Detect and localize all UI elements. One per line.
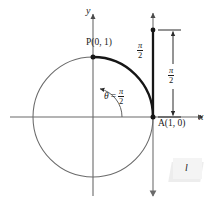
angle-denominator: 2 xyxy=(118,97,124,106)
segment-length-denominator: 2 xyxy=(168,76,174,85)
segment-length-label: π 2 xyxy=(168,66,174,85)
angle-symbol: θ xyxy=(104,91,109,101)
point-P-label: P(0, 1) xyxy=(86,38,112,48)
arc-length-numerator: π xyxy=(137,41,143,50)
tangent-line-label: l xyxy=(185,163,188,173)
angle-label: θ= π 2 xyxy=(104,87,124,106)
point-A-marker xyxy=(151,115,156,120)
arc-length-denominator: 2 xyxy=(137,51,143,60)
angle-equals-sign: = xyxy=(109,91,118,101)
point-P-marker xyxy=(91,55,96,60)
arc-length-fraction: π 2 xyxy=(137,41,143,60)
segment-top-marker xyxy=(151,28,156,33)
point-A-label: A(1, 0) xyxy=(158,119,185,129)
y-axis-label: y xyxy=(86,6,90,16)
arc-length-label: π 2 xyxy=(137,41,143,60)
x-axis-label: x xyxy=(199,112,203,122)
segment-length-numerator: π xyxy=(168,66,174,75)
segment-length-fraction: π 2 xyxy=(168,66,174,85)
angle-numerator: π xyxy=(118,87,124,96)
angle-value-fraction: π 2 xyxy=(118,87,124,106)
unit-circle-figure: y x P(0, 1) A(1, 0) π 2 π 2 θ= π 2 l xyxy=(0,0,214,208)
